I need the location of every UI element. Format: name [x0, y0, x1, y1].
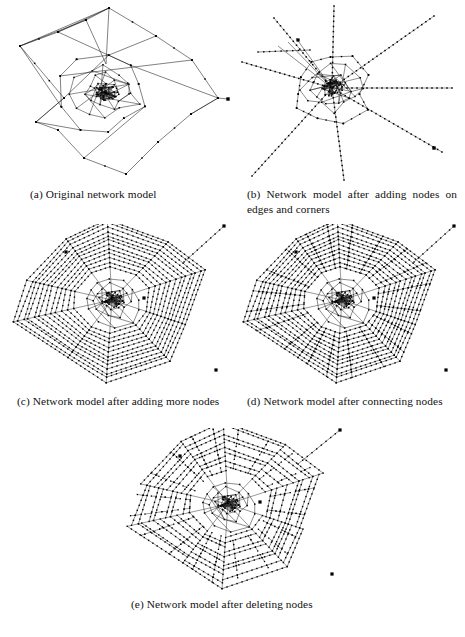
- caption-e-text: (e) Network model after deleting nodes: [131, 598, 313, 610]
- caption-e: (e) Network model after deleting nodes: [131, 597, 327, 612]
- figure-page: (a) Original network model (b) Network m…: [0, 0, 465, 637]
- panel-a-original-network: [6, 2, 234, 184]
- caption-a-text: (a) Original network model: [30, 188, 157, 200]
- caption-d: (d) Network model after connecting nodes: [247, 394, 457, 409]
- panel-c-more-nodes: [8, 224, 230, 392]
- network-diagram-d: [238, 224, 460, 392]
- caption-c: (c) Network model after adding more node…: [17, 394, 226, 409]
- panel-e-deleting-nodes: [118, 428, 348, 596]
- caption-b: (b) Network model after adding nodes on …: [247, 187, 457, 216]
- panel-d-connecting-nodes: [238, 224, 460, 392]
- network-diagram-c: [8, 224, 230, 392]
- caption-a: (a) Original network model: [30, 187, 226, 202]
- network-diagram-b: [236, 4, 460, 184]
- network-diagram-e: [118, 428, 348, 596]
- panel-b-nodes-on-edges: [236, 4, 460, 184]
- network-diagram-a: [6, 2, 234, 184]
- caption-c-text: (c) Network model after adding more node…: [17, 395, 219, 407]
- caption-d-text: (d) Network model after connecting nodes: [247, 395, 443, 407]
- caption-b-text: (b) Network model after adding nodes on …: [247, 188, 457, 215]
